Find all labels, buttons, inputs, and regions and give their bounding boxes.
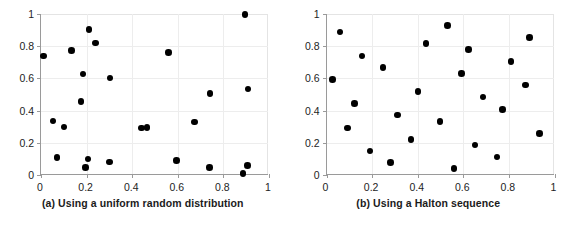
y-axis-tick-label: 0.8 [294,41,320,52]
x-axis-tick [463,174,464,178]
data-point [106,159,113,166]
x-axis-tick [555,174,556,178]
y-axis-tick-label: 0.4 [294,105,320,116]
data-point [522,82,529,89]
y-axis-tick-label: 0.2 [294,138,320,149]
x-axis-tick-label: 0.8 [501,182,516,193]
data-point [78,98,85,105]
gridline-horizontal [327,111,554,112]
y-axis-tick-label: 1 [8,9,34,20]
gridline-horizontal [327,46,554,47]
data-point [245,86,252,93]
gridline-vertical [509,14,510,174]
y-axis-tick-label: 0 [294,170,320,181]
data-point [408,136,415,143]
data-point [380,64,387,71]
data-point [173,157,180,164]
x-axis-tick-label: 0 [37,182,43,193]
data-point [415,88,422,95]
y-axis-tick [37,46,41,47]
x-axis-tick-label: 0 [323,182,329,193]
gridline-horizontal [327,143,554,144]
axis-edge-right-a [267,14,268,174]
x-axis-tick [132,174,133,178]
x-axis-tick-label: 1 [551,182,557,193]
x-axis-tick-label: 0.4 [124,182,139,193]
y-axis-tick-label: 0.6 [8,73,34,84]
data-point [107,75,114,82]
data-point [86,26,93,33]
data-point [451,165,458,172]
y-axis-tick-label: 0 [8,170,34,181]
data-point [344,125,351,132]
y-axis-tick [323,78,327,79]
data-point [499,106,506,113]
x-axis-tick-label: 0.6 [169,182,184,193]
data-point [437,118,444,125]
x-axis-tick [178,174,179,178]
x-axis-tick-label: 0.2 [364,182,379,193]
x-axis-tick [509,174,510,178]
x-axis-tick [372,174,373,178]
gridline-horizontal [41,78,268,79]
data-point [508,58,515,65]
gridline-vertical [463,14,464,174]
x-axis-tick [223,174,224,178]
y-axis-tick-label: 0.8 [8,41,34,52]
gridline-horizontal [41,111,268,112]
data-point [329,76,336,83]
y-axis-tick-label: 0.4 [8,105,34,116]
data-point [165,49,172,56]
gridline-vertical [178,14,179,174]
gridline-horizontal [41,46,268,47]
axis-edge-top-a [41,14,268,15]
y-axis-tick [323,111,327,112]
x-axis-tick [41,174,42,178]
x-axis-tick-label: 0.4 [409,182,424,193]
x-axis-tick-label: 1 [265,182,271,193]
data-point [465,46,472,53]
data-point [536,130,543,137]
y-axis-tick [323,175,327,176]
data-point [444,22,451,29]
x-axis-tick [418,174,419,178]
y-axis-tick [323,14,327,15]
data-point [337,29,344,36]
data-point [206,164,213,171]
data-point [387,159,394,166]
data-point [61,124,68,131]
data-point [240,170,247,177]
y-axis-tick [37,111,41,112]
y-axis-tick [37,14,41,15]
data-point [85,156,92,163]
plot-area-a [40,14,268,175]
data-point [54,154,61,161]
panel-b: 00.20.40.60.8100.20.40.60.81 (b) Using a… [286,0,571,229]
x-axis-tick-label: 0.8 [215,182,230,193]
panel-a: 00.20.40.60.8100.20.40.60.81 (a) Using a… [0,0,286,229]
data-point [394,112,401,119]
y-axis-tick [323,143,327,144]
data-point [144,124,151,131]
data-point [40,53,47,60]
axis-edge-right-b [553,14,554,174]
x-axis-tick [327,174,328,178]
y-axis-tick [37,175,41,176]
plot-area-b [326,14,554,175]
data-point [207,90,214,97]
data-point [472,142,479,149]
data-point [50,118,57,125]
panel-b-caption: (b) Using a Halton sequence [286,197,571,209]
data-point [244,162,251,169]
data-point [526,34,533,41]
figure-scatter-comparison: 00.20.40.60.8100.20.40.60.81 (a) Using a… [0,0,571,229]
data-point [80,71,87,78]
data-point [359,53,366,60]
gridline-horizontal [327,78,554,79]
data-point [68,47,75,54]
x-axis-tick-label: 0.2 [78,182,93,193]
gridline-vertical [223,14,224,174]
y-axis-tick [323,46,327,47]
data-point [242,11,249,18]
gridline-vertical [132,14,133,174]
